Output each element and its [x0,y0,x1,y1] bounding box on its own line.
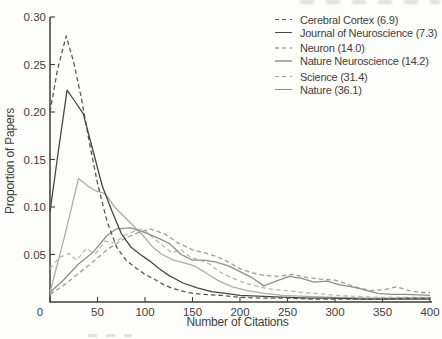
scan-artifact [300,0,440,4]
legend-label: Journal of Neuroscience (7.3) [300,27,437,39]
x-tick-label: 50 [91,306,104,318]
legend-item-cerebral-cortex: Cerebral Cortex (6.9) [275,13,437,26]
legend-label: Nature (36.1) [300,84,362,96]
series-line-neuron [50,229,430,297]
series-line-nature-neuroscience [50,179,430,299]
dashed-line-swatch [275,19,292,21]
y-tick-label: 0.05 [24,249,46,261]
legend-item-neuron: Neuron (14.0) [275,42,437,55]
scan-artifact [88,334,132,337]
legend-label: Science (31.4) [300,71,367,83]
legend-label: Cerebral Cortex (6.9) [300,14,398,26]
x-axis-title: Number of Citations [150,315,325,329]
dashed-line-swatch [275,47,292,49]
legend-label: Neuron (14.0) [300,42,365,54]
y-tick-label: 0.15 [24,154,46,166]
series-line-nature [50,228,430,296]
series-line-science [50,229,430,295]
solid-line-swatch [275,89,292,91]
legend-item-nature: Nature (36.1) [275,83,437,96]
y-tick-label: 0.25 [24,59,46,71]
legend-item-nature-neuroscience: Nature Neuroscience (14.2) [275,55,437,68]
y-tick-label: 0.10 [24,201,46,213]
solid-line-swatch [275,32,292,34]
legend-item-science: Science (31.4) [275,70,437,83]
y-axis-title: Proportion of Papers [3,108,17,214]
legend-label: Nature Neuroscience (14.2) [300,55,429,67]
legend: Cerebral Cortex (6.9) Journal of Neurosc… [275,13,437,96]
y-tick-label: 0.30 [24,11,46,23]
y-tick-label: 0.20 [24,106,46,118]
dashed-line-swatch [275,76,292,78]
x-tick-label: 300 [325,306,344,318]
x-tick-label: 0 [37,306,43,318]
series-line-journal-of-neuroscience [50,90,430,299]
citation-distribution-figure: 0501001502002503003504000.050.100.150.20… [0,0,442,339]
legend-item-journal-of-neuroscience: Journal of Neuroscience (7.3) [275,26,437,39]
x-tick-label: 350 [373,306,392,318]
x-tick-label: 400 [420,306,439,318]
solid-line-swatch [275,60,292,62]
